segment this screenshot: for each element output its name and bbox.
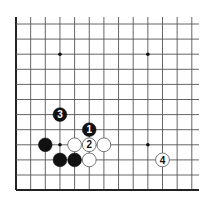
- black-stone: [68, 153, 82, 167]
- move-number-label: 1: [86, 124, 92, 135]
- go-board: 3124: [0, 0, 213, 202]
- move-number-label: 4: [160, 155, 166, 166]
- stone-disc: [68, 138, 82, 152]
- white-stone: [68, 138, 82, 152]
- star-point: [146, 143, 150, 147]
- stone-disc: [68, 153, 82, 167]
- white-stone-2: 2: [82, 138, 96, 152]
- grid-lines: [16, 17, 199, 190]
- white-stone-4: 4: [156, 153, 170, 167]
- black-stone: [38, 138, 52, 152]
- move-number-label: 3: [57, 109, 63, 120]
- star-point: [146, 52, 150, 56]
- stone-disc: [53, 153, 67, 167]
- black-stone-3: 3: [53, 108, 67, 122]
- black-stone: [53, 153, 67, 167]
- stone-disc: [82, 153, 96, 167]
- stone-disc: [38, 138, 52, 152]
- white-stone: [82, 153, 96, 167]
- move-number-label: 2: [86, 139, 92, 150]
- stone-disc: [97, 138, 111, 152]
- black-stone-1: 1: [82, 123, 96, 137]
- white-stone: [97, 138, 111, 152]
- star-point: [58, 52, 62, 56]
- star-point: [58, 143, 62, 147]
